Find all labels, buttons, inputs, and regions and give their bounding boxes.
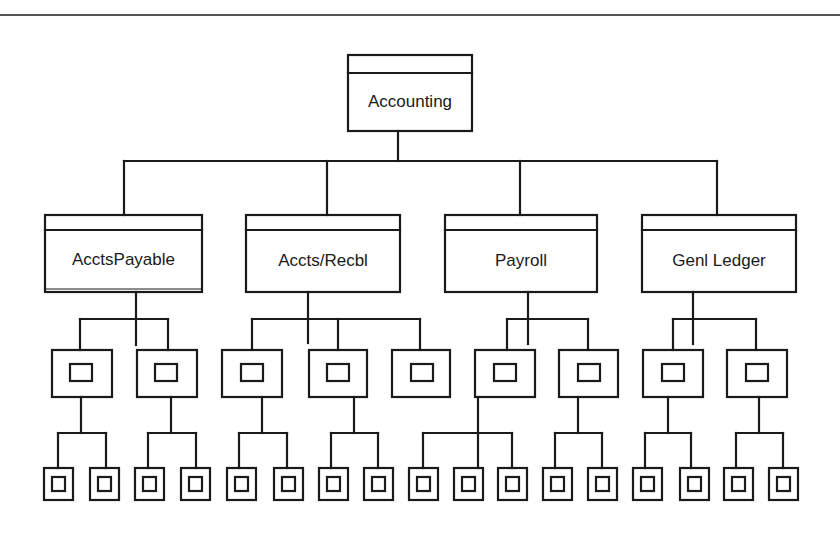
level1-connectors bbox=[124, 131, 717, 215]
node-l3-ap-2 bbox=[137, 350, 197, 397]
node-l4-5 bbox=[227, 468, 256, 500]
node-l4-10 bbox=[454, 468, 483, 500]
node-l4-6 bbox=[274, 468, 303, 500]
level4-nodes bbox=[44, 468, 798, 500]
node-payroll bbox=[445, 215, 597, 292]
node-l3-ar-1 bbox=[222, 350, 282, 397]
level3-connectors bbox=[58, 397, 783, 468]
node-accts-payable bbox=[45, 215, 202, 292]
node-l3-pr-2 bbox=[559, 350, 618, 397]
node-l3-ar-2 bbox=[309, 350, 367, 397]
node-l3-gl-2 bbox=[727, 350, 787, 397]
node-l4-1 bbox=[44, 468, 73, 500]
node-l4-12 bbox=[543, 468, 572, 500]
node-l4-14 bbox=[633, 468, 662, 500]
node-l4-11 bbox=[498, 468, 527, 500]
node-l4-2 bbox=[90, 468, 119, 500]
node-l4-17 bbox=[769, 468, 798, 500]
level2-connectors bbox=[80, 292, 756, 350]
node-l4-4 bbox=[181, 468, 210, 500]
root-node-accounting bbox=[348, 55, 472, 131]
node-l4-9 bbox=[409, 468, 438, 500]
node-l4-13 bbox=[588, 468, 617, 500]
node-l4-16 bbox=[724, 468, 753, 500]
level3-nodes bbox=[52, 350, 787, 397]
node-l4-15 bbox=[680, 468, 709, 500]
node-l3-gl-1 bbox=[643, 350, 703, 397]
node-l3-ap-1 bbox=[52, 350, 112, 397]
node-l3-ar-3 bbox=[392, 350, 450, 397]
node-l4-8 bbox=[364, 468, 393, 500]
org-chart-diagram: Accounting AcctsPayable Accts/Recbl Payr… bbox=[0, 0, 840, 535]
node-l3-pr-1 bbox=[475, 350, 535, 397]
node-genl-ledger bbox=[642, 215, 796, 292]
node-l4-7 bbox=[319, 468, 348, 500]
diagram-lines bbox=[0, 0, 840, 535]
node-l4-3 bbox=[135, 468, 164, 500]
node-accts-recbl bbox=[246, 215, 400, 292]
